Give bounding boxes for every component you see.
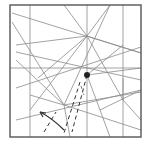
crease-line	[16, 47, 141, 88]
crease-line	[64, 105, 70, 137]
crease-pattern-diagram	[0, 0, 153, 150]
crease-line	[87, 75, 110, 137]
crease-line	[87, 5, 110, 36]
crease-line	[16, 52, 141, 80]
crease-line	[100, 90, 141, 110]
fold-arrow-icon	[40, 112, 64, 130]
crease-line	[87, 45, 123, 75]
crease-line	[64, 5, 87, 36]
reference-point-dot	[84, 72, 90, 78]
crease-line	[16, 90, 141, 120]
crease-line	[123, 100, 141, 120]
crease-line	[16, 36, 87, 45]
crease-line	[64, 92, 141, 105]
